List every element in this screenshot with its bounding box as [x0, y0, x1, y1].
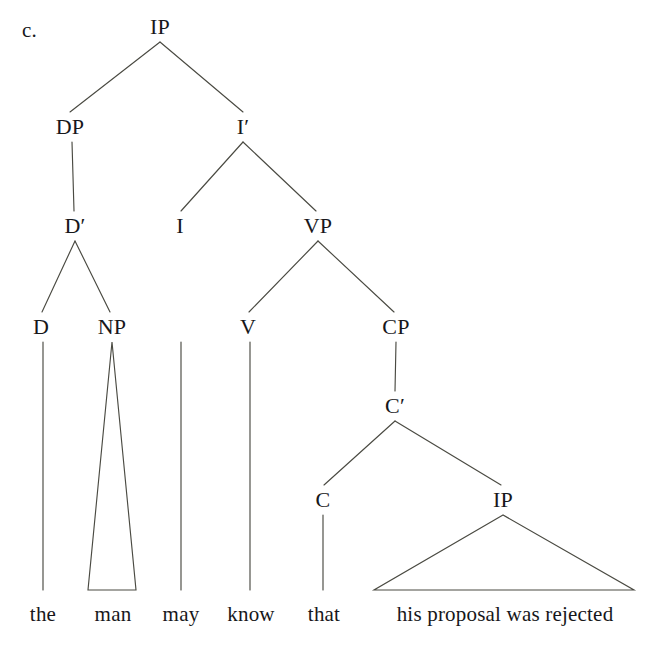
tree-node-CP: CP: [382, 316, 409, 338]
terminal-word-may: may: [163, 604, 200, 625]
tree-node-I: I: [176, 215, 184, 237]
tree-edge-dbar-np: [75, 241, 110, 312]
tree-edge-vp-v: [249, 241, 318, 312]
tree-node-C-bar: C′: [385, 395, 405, 417]
tree-edge-ibar-i: [181, 142, 243, 211]
tree-edge-ip-dp: [70, 42, 160, 112]
terminal-word-embedded: his proposal was rejected: [397, 604, 614, 625]
terminal-word-the: the: [30, 604, 56, 625]
tree-node-IP-root: IP: [150, 16, 170, 38]
example-letter: c.: [22, 20, 37, 41]
tree-triangle-np-triangle: [88, 342, 136, 590]
tree-node-DP: DP: [56, 116, 85, 138]
tree-edge-cbar-c: [324, 421, 395, 485]
tree-node-V: V: [240, 316, 256, 338]
tree-node-I-bar: I′: [237, 116, 250, 138]
terminal-word-know: know: [227, 604, 274, 625]
tree-node-NP: NP: [98, 316, 127, 338]
tree-node-IP-embed: IP: [493, 489, 513, 511]
tree-triangle-group: [88, 342, 634, 590]
tree-edge-ip-ibar: [160, 42, 243, 112]
tree-edge-dp-dbar: [72, 142, 74, 211]
tree-node-VP: VP: [304, 215, 333, 237]
tree-node-D-bar: D′: [64, 215, 85, 237]
tree-edge-cbar-ip: [395, 421, 501, 485]
tree-node-D: D: [33, 316, 49, 338]
tree-triangle-ip-triangle: [374, 515, 634, 590]
tree-edge-ibar-vp: [243, 142, 316, 211]
tree-edge-dbar-d: [42, 241, 75, 312]
tree-edge-vp-cp: [318, 241, 394, 312]
syntax-tree-figure: c. IPDPI′D′IVPDNPVCPC′CIP themanmayknowt…: [0, 0, 659, 652]
tree-edge-cp-cbar: [395, 342, 396, 391]
tree-node-C: C: [316, 489, 331, 511]
terminal-word-that: that: [308, 604, 340, 625]
terminal-word-man: man: [95, 604, 132, 625]
